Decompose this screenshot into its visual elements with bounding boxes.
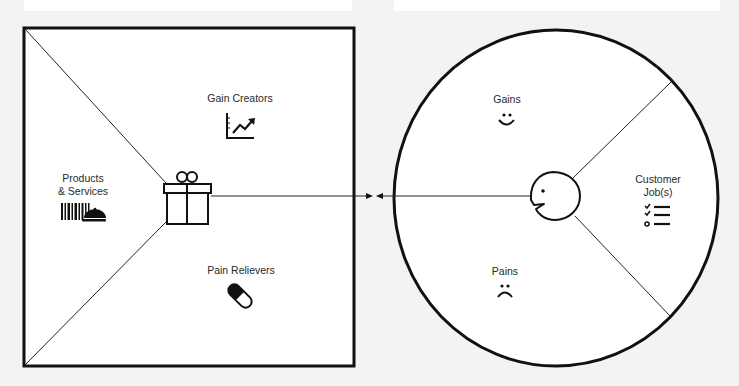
products-services-line2: & Services [48,185,118,198]
pains-text: Pains [492,265,518,277]
products-services-label: Products & Services [48,172,118,198]
gains-label: Gains [482,93,532,106]
customer-face-icon [531,172,580,220]
pain-relievers-label: Pain Relievers [204,264,278,277]
customer-jobs-label: Customer Job(s) [628,173,688,199]
pain-relievers-text: Pain Relievers [207,264,275,276]
customer-jobs-line2: Job(s) [628,186,688,199]
gain-creators-label: Gain Creators [204,92,276,105]
gains-text: Gains [493,93,520,105]
gain-creators-text: Gain Creators [207,92,272,104]
pains-label: Pains [480,265,530,278]
customer-jobs-line1: Customer [628,173,688,186]
products-services-line1: Products [48,172,118,185]
